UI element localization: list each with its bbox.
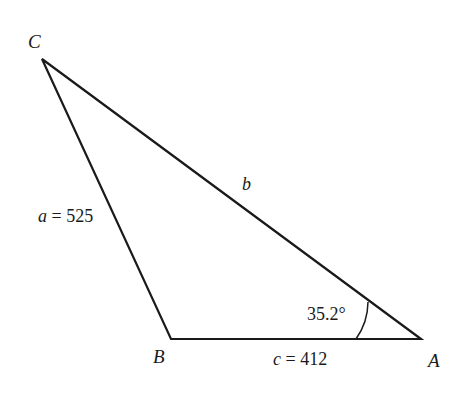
angle-a-label: 35.2°: [307, 304, 346, 324]
triangle-figure: C B A a = 525 b c = 412 35.2°: [0, 0, 466, 395]
triangle-abc: [42, 59, 421, 339]
triangle-diagram: C B A a = 525 b c = 412 35.2°: [0, 0, 466, 395]
vertex-b-label: B: [153, 346, 165, 367]
side-a-label: a = 525: [38, 206, 93, 226]
angle-a-arc: [356, 302, 368, 339]
vertex-a-label: A: [426, 350, 440, 371]
side-b-label: b: [242, 174, 251, 194]
vertex-c-label: C: [28, 31, 41, 52]
side-c-label: c = 412: [273, 349, 327, 369]
